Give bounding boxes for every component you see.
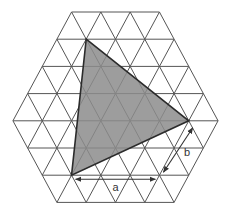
grid-slant-line (145, 148, 160, 175)
grid-slant-line (42, 121, 57, 148)
grid-slant-line (13, 94, 28, 121)
grid-slant-line (57, 39, 72, 66)
grid-slant-line (159, 39, 174, 66)
grid-slant-line (203, 94, 218, 121)
grid-slant-line (101, 12, 116, 39)
grid-slant-line (57, 148, 72, 175)
grid-slant-line (130, 39, 145, 66)
grid-slant-line (174, 66, 189, 93)
grid-slant-line (130, 12, 145, 39)
grid-slant-line (28, 66, 43, 93)
grid-slant-line (130, 148, 145, 175)
grid-slant-line (189, 148, 204, 175)
grid-slant-line (72, 12, 87, 39)
grid-slant-line (174, 175, 189, 202)
grid-slant-line (57, 94, 72, 121)
grid-slant-line (145, 39, 160, 66)
grid-slant-line (116, 39, 131, 66)
grid-slant-line (57, 175, 72, 202)
grid-slant-line (189, 66, 204, 93)
grid-slant-line (159, 66, 174, 93)
grid-slant-line (159, 12, 174, 39)
grid-slant-line (42, 175, 57, 202)
grid-slant-line (28, 121, 43, 148)
grid-slant-line (57, 121, 72, 148)
grid-slant-line (28, 94, 43, 121)
grid-slant-line (189, 94, 204, 121)
grid-slant-line (42, 94, 57, 121)
grid-slant-line (189, 121, 204, 148)
label-b: b (184, 146, 190, 158)
triangle-grid-diagram: a b (0, 0, 236, 215)
label-a: a (113, 181, 120, 193)
grid-slant-line (203, 121, 218, 148)
grid-slant-line (57, 12, 72, 39)
grid-slant-line (42, 66, 57, 93)
grid-slant-line (57, 66, 72, 93)
grid-slant-line (42, 39, 57, 66)
grid-slant-line (13, 121, 28, 148)
grid-slant-line (116, 12, 131, 39)
shaded-triangle (72, 39, 189, 175)
grid-slant-line (159, 148, 174, 175)
grid-slant-line (174, 39, 189, 66)
grid-slant-line (28, 148, 43, 175)
grid-slant-line (159, 175, 174, 202)
grid-slant-line (145, 12, 160, 39)
grid-slant-line (86, 12, 101, 39)
grid-slant-line (42, 148, 57, 175)
